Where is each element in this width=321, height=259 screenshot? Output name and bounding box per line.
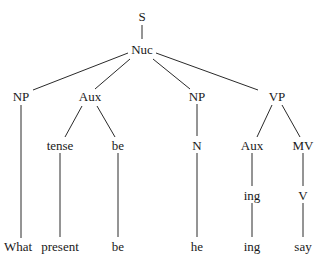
node-ing2: ing [244,239,261,254]
node-np1: NP [13,89,30,104]
edge-vp-aux2 [257,105,272,137]
edge-nuc-np1 [33,53,128,90]
node-say: say [294,239,312,254]
node-what: What [4,239,33,254]
syntax-tree: SNucNPAuxNPVPtensebeNAuxMVingVWhatpresen… [0,0,321,259]
node-mv: MV [293,138,315,153]
node-ing1: ing [244,188,261,203]
node-be1: be [112,138,125,153]
edge-aux1-tense [65,106,82,137]
node-np2: NP [189,89,206,104]
node-be2: be [112,239,125,254]
node-nuc: Nuc [131,42,153,57]
tree-labels: SNucNPAuxNPVPtensebeNAuxMVingVWhatpresen… [4,9,314,254]
edge-nuc-vp [156,53,258,90]
edge-aux1-be1 [97,106,115,137]
node-present: present [41,239,79,254]
node-tense: tense [47,138,74,153]
edge-vp-mv [282,105,300,137]
node-aux1: Aux [79,89,102,104]
node-he: he [191,239,204,254]
node-vp: VP [269,89,286,104]
tree-edges [21,25,303,238]
node-v: V [298,188,308,203]
node-aux2: Aux [241,138,264,153]
node-s: S [138,9,145,24]
node-n: N [192,138,202,153]
